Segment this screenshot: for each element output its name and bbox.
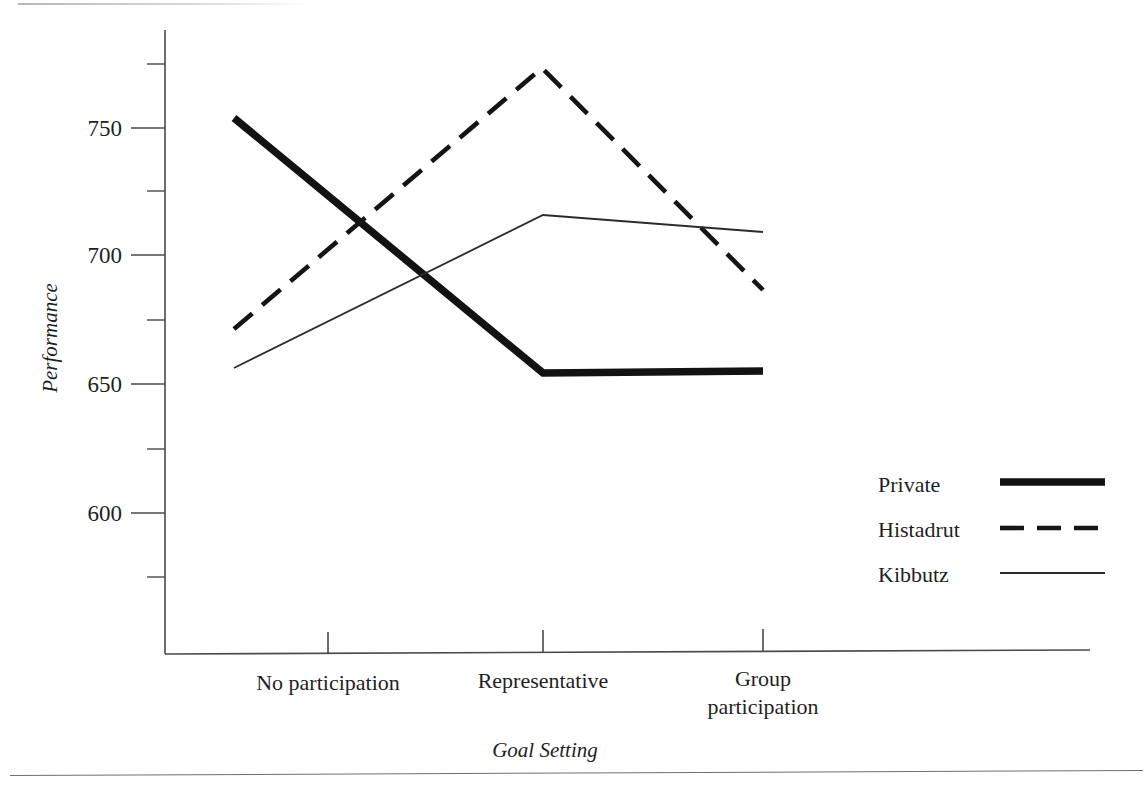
x-label-representative: Representative — [478, 668, 609, 693]
y-minor-ticks — [147, 64, 165, 577]
legend-label-histadrut: Histadrut — [878, 517, 960, 542]
y-tick-label-700: 700 — [88, 243, 123, 268]
legend-item-private[interactable]: Private — [878, 472, 1105, 497]
legend: Private Histadrut Kibbutz — [878, 472, 1105, 587]
x-category-labels: No participation Representative Group pa… — [256, 666, 818, 719]
figure-container: 750 700 650 600 No participation Represe… — [0, 0, 1147, 798]
series-line-private — [234, 118, 763, 373]
legend-label-kibbutz: Kibbutz — [878, 562, 949, 587]
legend-item-kibbutz[interactable]: Kibbutz — [878, 562, 1105, 587]
y-tick-label-650: 650 — [88, 372, 123, 397]
y-tick-label-750: 750 — [88, 116, 123, 141]
legend-item-histadrut[interactable]: Histadrut — [878, 517, 1105, 542]
series-line-histadrut — [234, 68, 763, 329]
x-label-group-participation-line2: participation — [707, 694, 818, 719]
x-axis-line — [165, 650, 1090, 654]
y-tick-label-600: 600 — [88, 501, 123, 526]
series-line-kibbutz — [234, 215, 763, 368]
axis-lines — [165, 30, 1090, 654]
y-tick-labels: 750 700 650 600 — [88, 116, 123, 526]
y-axis-title: Performance — [38, 283, 62, 394]
x-ticks — [328, 629, 763, 654]
x-axis-title: Goal Setting — [492, 738, 598, 762]
x-label-no-participation: No participation — [256, 670, 400, 695]
footer-caption — [800, 789, 1140, 798]
x-label-group-participation-line1: Group — [735, 666, 791, 691]
line-chart: 750 700 650 600 No participation Represe… — [0, 0, 1147, 798]
legend-label-private: Private — [878, 472, 940, 497]
